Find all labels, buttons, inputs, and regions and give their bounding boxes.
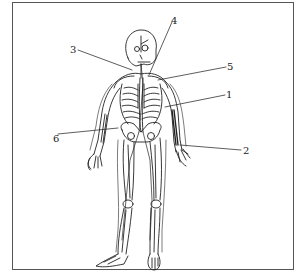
- ribcage: [120, 84, 162, 124]
- right-leg: [96, 140, 134, 267]
- label-5: 5: [227, 62, 233, 72]
- label-6: 6: [53, 134, 59, 144]
- pelvis: [121, 122, 161, 142]
- label-1: 1: [226, 90, 232, 100]
- left-leg: [148, 138, 162, 270]
- label-2: 2: [243, 146, 249, 156]
- label-3: 3: [70, 45, 76, 55]
- leader-lines: [58, 22, 241, 150]
- left-arm: [162, 82, 190, 166]
- skull: [126, 30, 157, 66]
- label-4: 4: [171, 16, 177, 26]
- body-outline: [90, 84, 186, 252]
- blood-vessels: [122, 64, 152, 240]
- skeleton-illustration: [0, 0, 306, 279]
